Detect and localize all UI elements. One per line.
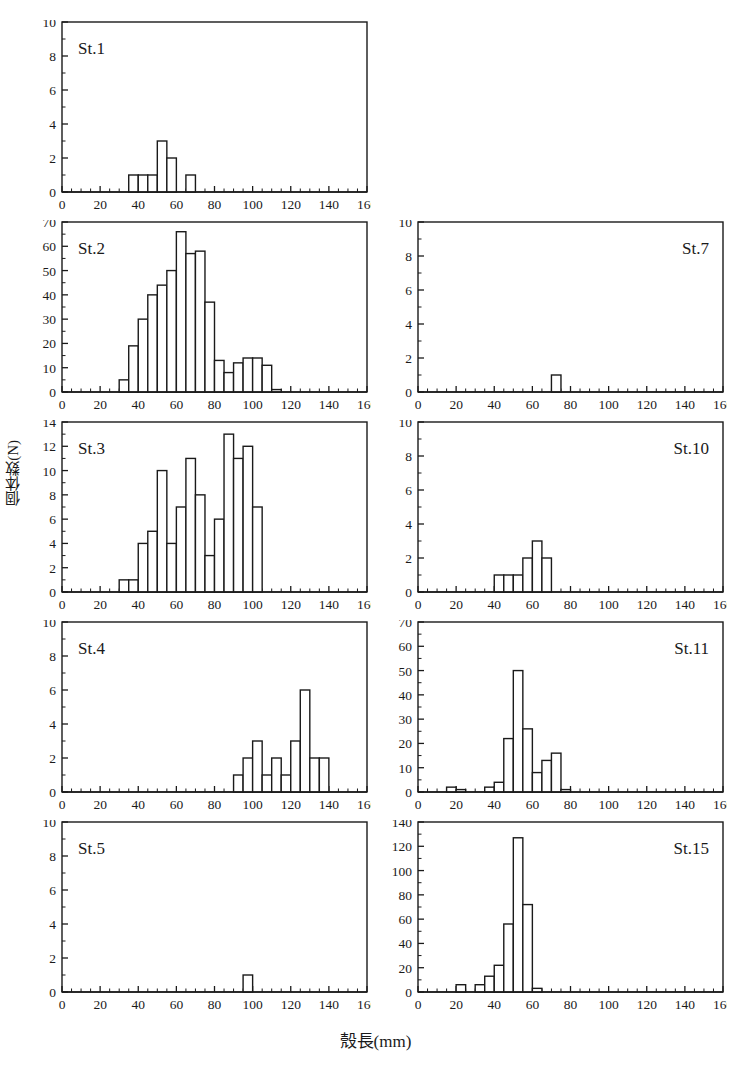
x-tick-label: 80 [208, 797, 222, 812]
histogram-bar [176, 232, 186, 392]
y-tick-label: 14 [43, 420, 57, 430]
y-tick-label: 8 [49, 849, 56, 864]
histogram-bar [523, 905, 533, 992]
x-tick-label: 40 [488, 797, 502, 812]
y-tick-label: 10 [399, 220, 413, 230]
histogram-bar [291, 741, 301, 792]
x-tick-label: 0 [415, 597, 422, 612]
histogram-bar [148, 175, 158, 192]
histogram-bar [176, 507, 186, 592]
x-tick-label: 140 [319, 797, 340, 812]
histogram-bar [215, 519, 225, 592]
bars-group [234, 690, 329, 792]
y-tick-label: 4 [49, 117, 56, 132]
histogram-bar [551, 375, 561, 392]
histogram-bar [513, 671, 523, 792]
x-tick-label: 160 [713, 797, 727, 812]
panel-title: St.11 [674, 639, 709, 658]
plot-st3: 02040608010012014016002468101214St.3 [24, 420, 371, 618]
y-tick-label: 40 [399, 688, 413, 703]
x-tick-label: 140 [675, 997, 696, 1012]
y-tick-label: 12 [43, 439, 57, 454]
plot-st7: 0204060801001201401600246810St.7 [380, 220, 727, 418]
y-tick-label: 10 [399, 420, 413, 430]
x-tick-label: 120 [281, 797, 302, 812]
x-tick-label: 20 [93, 797, 107, 812]
y-tick-label: 4 [49, 536, 56, 551]
x-tick-label: 60 [526, 997, 540, 1012]
histogram-bar [532, 541, 542, 592]
panel-title: St.4 [78, 639, 105, 658]
y-tick-label: 2 [49, 561, 56, 576]
bars-group [551, 375, 561, 392]
x-tick-label: 100 [599, 597, 620, 612]
x-tick-label: 80 [208, 397, 222, 412]
x-tick-label: 0 [59, 597, 66, 612]
histogram-bar [138, 319, 148, 392]
y-tick-label: 6 [49, 512, 56, 527]
x-tick-label: 20 [93, 397, 107, 412]
x-tick-label: 40 [132, 397, 146, 412]
histogram-bar [129, 580, 139, 592]
plot-st5: 0204060801001201401600246810St.5 [24, 820, 371, 1018]
x-tick-label: 0 [59, 797, 66, 812]
histogram-bar [504, 739, 514, 792]
histogram-bar [195, 495, 205, 592]
histogram-bar [300, 690, 310, 792]
x-tick-label: 120 [637, 397, 658, 412]
histogram-bar [310, 758, 320, 792]
x-tick-label: 60 [170, 197, 184, 212]
bars-group [119, 232, 281, 392]
x-tick-label: 20 [449, 997, 463, 1012]
panel-st5: 0204060801001201401600246810St.5 [24, 820, 371, 1018]
histogram-bar [205, 556, 215, 592]
x-tick-label: 100 [243, 997, 264, 1012]
x-tick-label: 60 [526, 597, 540, 612]
y-tick-label: 6 [405, 283, 412, 298]
y-tick-label: 20 [43, 336, 57, 351]
histogram-bar [224, 434, 234, 592]
x-tick-label: 80 [208, 597, 222, 612]
x-tick-label: 20 [449, 397, 463, 412]
histogram-bar [157, 141, 167, 192]
histogram-bar [494, 965, 504, 992]
bars-group [456, 838, 542, 992]
y-tick-label: 2 [405, 551, 412, 566]
histogram-bar [523, 729, 533, 792]
x-tick-label: 40 [132, 597, 146, 612]
y-tick-label: 10 [43, 620, 57, 630]
y-tick-label: 0 [405, 385, 412, 400]
panel-st3: 02040608010012014016002468101214St.3 [24, 420, 371, 618]
histogram-bar [243, 758, 253, 792]
y-tick-label: 4 [405, 517, 412, 532]
y-tick-label: 120 [392, 839, 413, 854]
histogram-bar [513, 838, 523, 992]
y-tick-label: 8 [49, 488, 56, 503]
histogram-bar [167, 158, 177, 192]
histogram-bar [542, 558, 552, 592]
histogram-bar [253, 741, 263, 792]
x-tick-label: 20 [449, 797, 463, 812]
y-tick-label: 10 [43, 20, 57, 30]
x-tick-label: 140 [319, 597, 340, 612]
x-tick-label: 20 [93, 597, 107, 612]
y-tick-label: 30 [399, 712, 413, 727]
x-tick-label: 140 [675, 597, 696, 612]
histogram-bar [157, 471, 167, 592]
x-tick-label: 60 [526, 797, 540, 812]
y-tick-label: 2 [49, 151, 56, 166]
histogram-bar [167, 543, 177, 592]
x-tick-label: 100 [599, 797, 620, 812]
y-tick-label: 40 [399, 936, 413, 951]
x-tick-label: 40 [132, 997, 146, 1012]
histogram-bar [195, 251, 205, 392]
x-tick-label: 120 [281, 997, 302, 1012]
y-tick-label: 60 [399, 639, 413, 654]
y-tick-label: 0 [405, 785, 412, 800]
histogram-figure: 個体数(N) 殼長(mm) 02040608010012014016002468… [0, 0, 751, 1071]
histogram-bar [523, 558, 533, 592]
histogram-bar [243, 358, 253, 392]
y-tick-label: 6 [405, 483, 412, 498]
histogram-bar [253, 358, 263, 392]
panel-st4: 0204060801001201401600246810St.4 [24, 620, 371, 818]
